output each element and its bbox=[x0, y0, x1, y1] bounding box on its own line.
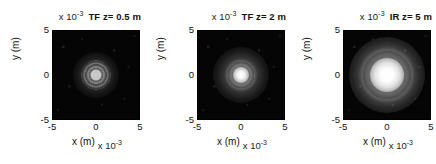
panel-1-title: TF z= 0.5 m bbox=[88, 11, 141, 22]
panel-3-ytick-top: 5 bbox=[324, 25, 340, 35]
panel-3-top-row: x 10-3 IR z= 5 m bbox=[290, 11, 432, 25]
panel-tf-z2: x 10-3 TF z= 2 m y (m) 5 0 -5 -5 0 5 x (… bbox=[145, 0, 290, 164]
figure-three-panel-intensity-plots: x 10-3 TF z= 0.5 m y (m) 5 0 -5 -5 0 5 x… bbox=[0, 0, 436, 164]
y-axis-exponent-note: x 10-3 bbox=[59, 11, 84, 22]
panel-3-background-noise bbox=[344, 31, 430, 119]
panel-2-x-axis-label: x (m) bbox=[217, 136, 240, 147]
panel-2-ytick-top: 5 bbox=[178, 25, 194, 35]
panel-3-xtick-right: 5 bbox=[420, 122, 436, 132]
panel-2-ytick-mid: 0 bbox=[178, 70, 194, 80]
panel-1-plot-area bbox=[52, 30, 140, 120]
y-axis-exponent-note: x 10-3 bbox=[360, 11, 385, 22]
panel-3-beam-halo bbox=[349, 37, 425, 113]
panel-2-top-row: x 10-3 TF z= 2 m bbox=[145, 11, 286, 25]
panel-3-beam-core bbox=[370, 58, 404, 92]
panel-2-beam-halo bbox=[213, 47, 269, 103]
panel-2-y-axis-label: y (m) bbox=[155, 37, 166, 60]
panel-2-plot-area bbox=[197, 30, 285, 120]
panel-3-x-axis-exponent-note: x 10-3 bbox=[389, 140, 413, 151]
panel-1-x-axis-label-row: x (m) x 10-3 bbox=[52, 136, 142, 147]
panel-3-y-axis-label: y (m) bbox=[301, 37, 312, 60]
panel-3-plot-area bbox=[343, 30, 431, 120]
panel-1-x-axis-exponent-note: x 10-3 bbox=[98, 140, 122, 151]
panel-3-xtick-mid: 0 bbox=[376, 122, 398, 132]
panel-2-beam-core bbox=[233, 67, 249, 83]
panel-2-xtick-left: -5 bbox=[186, 122, 208, 132]
panel-2-title: TF z= 2 m bbox=[242, 11, 286, 22]
y-axis-exponent-note: x 10-3 bbox=[212, 11, 237, 22]
panel-1-top-row: x 10-3 TF z= 0.5 m bbox=[0, 11, 141, 25]
panel-1-xtick-left: -5 bbox=[41, 122, 63, 132]
panel-1-xtick-mid: 0 bbox=[85, 122, 107, 132]
panel-1-y-axis-label: y (m) bbox=[10, 37, 21, 60]
panel-3-x-axis-label-row: x (m) x 10-3 bbox=[343, 136, 433, 147]
panel-3-diffraction-rings bbox=[358, 46, 416, 104]
panel-2-diffraction-rings bbox=[224, 58, 258, 92]
panel-1-ytick-top: 5 bbox=[33, 25, 49, 35]
panel-2-x-axis-label-row: x (m) x 10-3 bbox=[197, 136, 287, 147]
panel-3-x-axis-label: x (m) bbox=[363, 136, 386, 147]
panel-3-xtick-left: -5 bbox=[332, 122, 354, 132]
panel-3-ytick-mid: 0 bbox=[324, 70, 340, 80]
panel-2-xtick-mid: 0 bbox=[230, 122, 252, 132]
panel-1-beam-core bbox=[91, 70, 102, 81]
panel-2-background-noise bbox=[198, 31, 284, 119]
panel-1-x-axis-label: x (m) bbox=[72, 136, 95, 147]
panel-2-x-axis-exponent-note: x 10-3 bbox=[243, 140, 267, 151]
panel-tf-z05: x 10-3 TF z= 0.5 m y (m) 5 0 -5 -5 0 5 x… bbox=[0, 0, 145, 164]
panel-1-background-noise bbox=[53, 31, 139, 119]
panel-1-beam-halo bbox=[73, 52, 119, 98]
panel-1-ytick-mid: 0 bbox=[33, 70, 49, 80]
panel-3-title: IR z= 5 m bbox=[390, 11, 432, 22]
panel-ir-z5: x 10-3 IR z= 5 m y (m) 5 0 -5 -5 0 5 x (… bbox=[290, 0, 436, 164]
panel-1-diffraction-rings bbox=[81, 60, 111, 90]
